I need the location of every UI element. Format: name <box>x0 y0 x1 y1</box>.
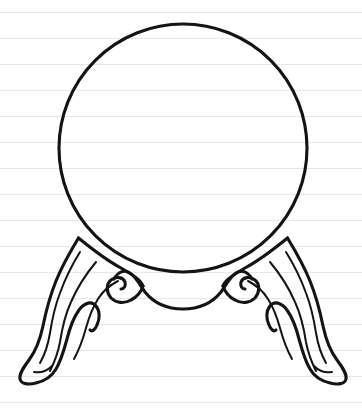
ruled-paper-background <box>0 0 362 415</box>
drawing-canvas <box>0 0 362 415</box>
paper-surface <box>0 0 362 415</box>
